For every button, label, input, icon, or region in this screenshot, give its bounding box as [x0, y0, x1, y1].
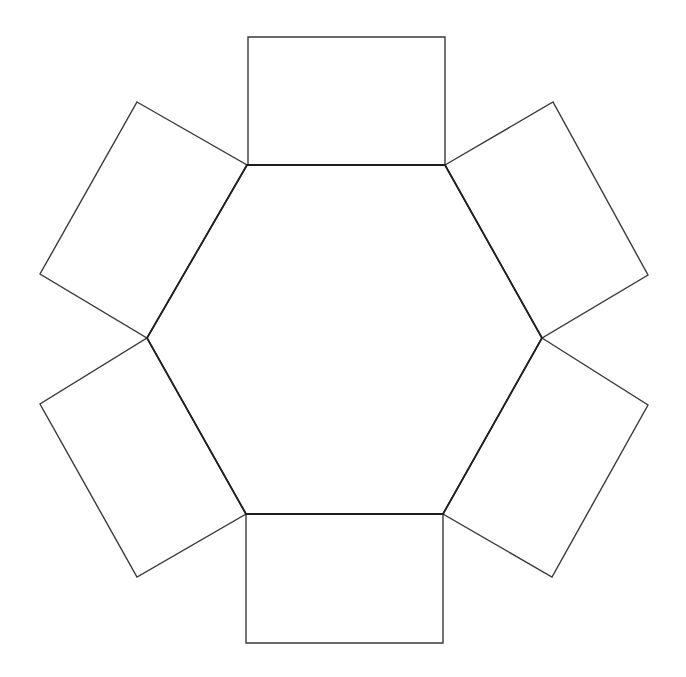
- background: [0, 0, 686, 677]
- hexagonal-prism-net-diagram: [0, 0, 686, 677]
